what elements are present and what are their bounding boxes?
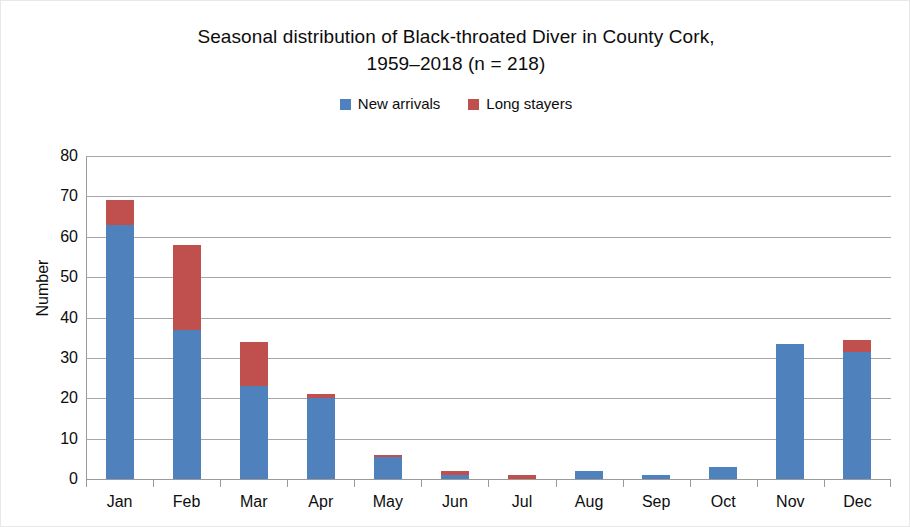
- chart-title: Seasonal distribution of Black-throated …: [1, 23, 910, 77]
- bar-group-sep: [623, 156, 690, 479]
- bar-segment-new-arrivals-aug[interactable]: [575, 471, 603, 479]
- x-tick-mark: [623, 479, 624, 487]
- bar-group-dec: [824, 156, 891, 479]
- bar-stack[interactable]: [843, 340, 871, 479]
- y-tick-label-80: 80: [42, 148, 78, 164]
- bar-segment-new-arrivals-mar[interactable]: [240, 386, 268, 479]
- y-tick-label-10: 10: [42, 431, 78, 447]
- legend-item-new-arrivals[interactable]: New arrivals: [340, 95, 441, 113]
- bar-segment-long-stayers-mar[interactable]: [240, 342, 268, 386]
- x-tick-label-jan: Jan: [86, 492, 153, 512]
- x-tick-slot: [220, 479, 287, 488]
- bar-stack[interactable]: [374, 455, 402, 479]
- bar-group-feb: [153, 156, 220, 479]
- y-axis-tick-labels: 80706050403020100: [21, 156, 78, 479]
- legend-label-long-stayers: Long stayers: [486, 95, 572, 113]
- x-axis-ticks: [86, 479, 891, 488]
- x-tick-slot: [287, 479, 354, 488]
- bar-segment-long-stayers-jan[interactable]: [106, 200, 134, 224]
- y-tick-label-20: 20: [42, 390, 78, 406]
- bar-stack[interactable]: [441, 471, 469, 479]
- bar-group-oct: [690, 156, 757, 479]
- bar-segment-long-stayers-dec[interactable]: [843, 340, 871, 352]
- x-tick-slot: [421, 479, 488, 488]
- x-tick-mark: [690, 479, 691, 487]
- bar-stack[interactable]: [240, 342, 268, 479]
- bar-group-nov: [757, 156, 824, 479]
- x-axis-tick-end: [890, 479, 891, 487]
- x-tick-label-jun: Jun: [421, 492, 488, 512]
- bar-group-jan: [86, 156, 153, 479]
- chart-legend: New arrivals Long stayers: [1, 95, 910, 113]
- x-tick-label-aug: Aug: [556, 492, 623, 512]
- bar-segment-new-arrivals-dec[interactable]: [843, 352, 871, 479]
- bar-group-may: [354, 156, 421, 479]
- x-tick-slot: [86, 479, 153, 488]
- bar-segment-new-arrivals-oct[interactable]: [709, 467, 737, 479]
- chart-container: Seasonal distribution of Black-throated …: [0, 0, 910, 527]
- x-tick-mark: [220, 479, 221, 487]
- legend-swatch-icon-long-stayers: [468, 99, 479, 110]
- legend-label-new-arrivals: New arrivals: [358, 95, 441, 113]
- x-tick-slot: [623, 479, 690, 488]
- bar-group-jul: [488, 156, 555, 479]
- x-tick-mark: [488, 479, 489, 487]
- bar-stack[interactable]: [709, 467, 737, 479]
- x-tick-label-apr: Apr: [287, 492, 354, 512]
- x-tick-label-sep: Sep: [623, 492, 690, 512]
- x-tick-mark: [824, 479, 825, 487]
- legend-swatch-icon-new-arrivals: [340, 99, 351, 110]
- x-tick-slot: [824, 479, 891, 488]
- x-tick-slot: [757, 479, 824, 488]
- x-tick-mark: [153, 479, 154, 487]
- x-tick-slot: [556, 479, 623, 488]
- x-tick-mark: [86, 479, 87, 487]
- bar-group-jun: [421, 156, 488, 479]
- x-tick-slot: [354, 479, 421, 488]
- bar-segment-new-arrivals-jan[interactable]: [106, 225, 134, 479]
- plot-area: [86, 156, 891, 479]
- bar-stack[interactable]: [575, 471, 603, 479]
- chart-title-line-2: 1959–2018 (n = 218): [1, 50, 910, 77]
- x-tick-slot: [488, 479, 555, 488]
- bar-stack[interactable]: [173, 245, 201, 479]
- bar-stack[interactable]: [106, 200, 134, 479]
- y-tick-label-30: 30: [42, 350, 78, 366]
- x-tick-label-dec: Dec: [824, 492, 891, 512]
- y-tick-label-0: 0: [42, 471, 78, 487]
- x-tick-label-oct: Oct: [690, 492, 757, 512]
- bar-segment-new-arrivals-nov[interactable]: [776, 344, 804, 479]
- bars-layer: [86, 156, 891, 479]
- x-tick-mark: [287, 479, 288, 487]
- legend-item-long-stayers[interactable]: Long stayers: [468, 95, 572, 113]
- bar-segment-new-arrivals-apr[interactable]: [307, 398, 335, 479]
- bar-segment-new-arrivals-feb[interactable]: [173, 330, 201, 479]
- bar-segment-new-arrivals-may[interactable]: [374, 457, 402, 479]
- x-tick-mark: [421, 479, 422, 487]
- bar-group-apr: [287, 156, 354, 479]
- y-tick-label-70: 70: [42, 188, 78, 204]
- y-tick-label-40: 40: [42, 310, 78, 326]
- x-tick-mark: [354, 479, 355, 487]
- y-tick-label-50: 50: [42, 269, 78, 285]
- x-tick-slot: [690, 479, 757, 488]
- x-axis-tick-labels: JanFebMarAprMayJunJulAugSepOctNovDec: [86, 492, 891, 512]
- x-tick-mark: [556, 479, 557, 487]
- bar-group-mar: [220, 156, 287, 479]
- chart-title-line-1: Seasonal distribution of Black-throated …: [1, 23, 910, 50]
- x-tick-label-jul: Jul: [488, 492, 555, 512]
- bar-group-aug: [556, 156, 623, 479]
- x-tick-label-may: May: [354, 492, 421, 512]
- x-tick-mark: [757, 479, 758, 487]
- bar-stack[interactable]: [307, 394, 335, 479]
- x-tick-label-nov: Nov: [757, 492, 824, 512]
- x-tick-slot: [153, 479, 220, 488]
- y-tick-label-60: 60: [42, 229, 78, 245]
- x-tick-label-mar: Mar: [220, 492, 287, 512]
- bar-segment-long-stayers-feb[interactable]: [173, 245, 201, 330]
- x-tick-label-feb: Feb: [153, 492, 220, 512]
- bar-stack[interactable]: [776, 344, 804, 479]
